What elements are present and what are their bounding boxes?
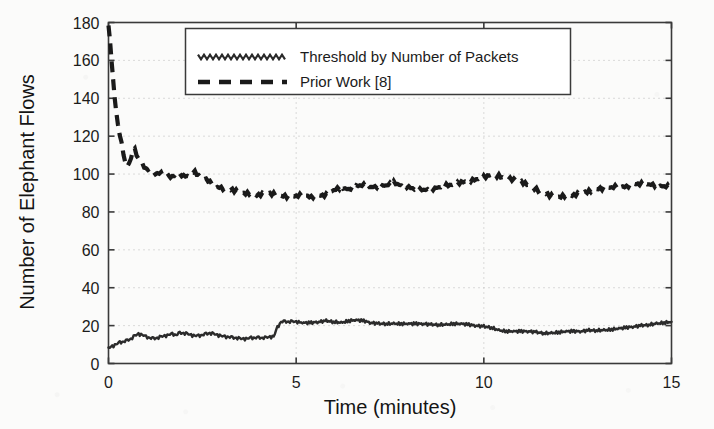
x-tick-label: 10 <box>475 374 493 391</box>
y-tick-label: 120 <box>73 128 100 145</box>
x-axis-tick-labels: 051015 <box>104 374 680 391</box>
legend-label-threshold: Threshold by Number of Packets <box>300 48 518 65</box>
y-axis-title: Number of Elephant Flows <box>16 74 38 310</box>
y-tick-label: 160 <box>73 52 100 69</box>
x-tick-label: 0 <box>104 374 113 391</box>
y-tick-label: 0 <box>91 356 100 373</box>
y-tick-label: 140 <box>73 90 100 107</box>
chart-legend: Threshold by Number of Packets Prior Wor… <box>186 29 571 95</box>
x-tick-label: 15 <box>663 374 681 391</box>
y-tick-label: 20 <box>82 318 100 335</box>
x-tick-label: 5 <box>292 374 301 391</box>
y-tick-label: 100 <box>73 166 100 183</box>
line-chart: 020406080100120140160180 051015 Time (mi… <box>0 0 714 429</box>
y-tick-label: 60 <box>82 242 100 259</box>
y-tick-label: 180 <box>73 15 100 32</box>
legend-label-prior-work: Prior Work [8] <box>300 73 391 90</box>
series-line-threshold <box>109 319 672 348</box>
chart-figure: 020406080100120140160180 051015 Time (mi… <box>0 0 714 429</box>
y-tick-label: 80 <box>82 204 100 221</box>
y-axis-tick-labels: 020406080100120140160180 <box>73 15 100 373</box>
x-axis-title: Time (minutes) <box>324 396 457 418</box>
y-tick-label: 40 <box>82 280 100 297</box>
